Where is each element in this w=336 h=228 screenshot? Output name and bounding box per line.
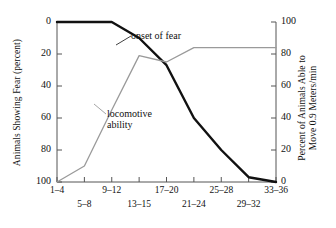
series-label-locomotive-ability: locomotive ability (107, 108, 152, 130)
left-axis-tick-label: 60 (17, 111, 51, 122)
left-axis-tick-label: 40 (17, 79, 51, 90)
leader-line-onset-of-fear (116, 36, 131, 45)
leader-line-locomotive-ability (94, 104, 106, 114)
annotation-leader-lines (94, 36, 131, 114)
right-axis-tick-label: 40 (281, 111, 311, 122)
right-axis-tick-label: 100 (281, 15, 311, 26)
x-axis-tick-label: 9–12 (86, 185, 138, 195)
x-axis-tick-label: 1–4 (31, 185, 83, 195)
chart-figure: Animals Showing Fear (percent) Percent o… (0, 0, 336, 228)
right-axis-tick-label: 80 (281, 47, 311, 58)
left-axis-tick-label: 80 (17, 143, 51, 154)
x-axis-tick-label: 29–32 (223, 199, 275, 209)
axes-group (57, 22, 276, 182)
left-axis-tick-label: 0 (17, 15, 51, 26)
right-axis-tick-label: 20 (281, 143, 311, 154)
series-line-onset-of-fear (57, 22, 276, 182)
x-axis-tick-label: 21–24 (168, 199, 220, 209)
series-label-onset-of-fear: onset of fear (131, 30, 181, 41)
right-axis-tick-label: 60 (281, 79, 311, 90)
x-axis-tick-label: 13–15 (113, 199, 165, 209)
left-axis-tick-label: 20 (17, 47, 51, 58)
locomotive-label-line2: ability (107, 119, 152, 130)
x-axis-tick-label: 17–20 (141, 185, 193, 195)
series-group (57, 22, 276, 182)
x-axis-tick-label: 33–36 (250, 185, 302, 195)
x-axis-tick-label: 5–8 (58, 199, 110, 209)
x-axis-tick-label: 25–28 (195, 185, 247, 195)
locomotive-label-line1: locomotive (107, 108, 152, 119)
